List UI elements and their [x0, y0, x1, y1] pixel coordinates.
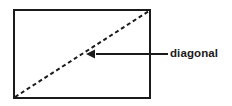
diagonal-label: diagonal	[170, 48, 218, 60]
diagram-canvas: diagonal	[0, 0, 232, 106]
